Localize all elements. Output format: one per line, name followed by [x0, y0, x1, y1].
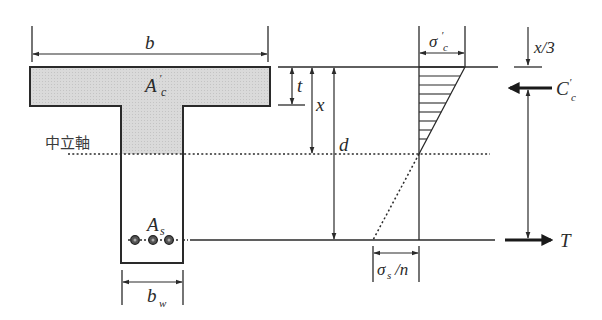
svg-text:σ: σ — [377, 260, 386, 279]
neutral-axis-label: 中立軸 — [45, 134, 90, 152]
web-width-dimension: b w — [122, 270, 183, 309]
stress-hatching — [419, 76, 460, 139]
neutral-axis: 中立軸 — [45, 134, 490, 154]
svg-text:T: T — [560, 230, 572, 251]
rebars: A s — [128, 214, 188, 244]
compression-triangle — [419, 67, 465, 154]
flange-width-label: b — [145, 32, 155, 53]
svg-text:x/3: x/3 — [533, 38, 555, 57]
svg-text:s: s — [387, 269, 391, 281]
svg-text:σ: σ — [429, 32, 438, 51]
force-couple: x/3 C ′ c T — [505, 27, 576, 251]
svg-text:t: t — [297, 75, 303, 96]
svg-text:x: x — [315, 94, 325, 115]
web-width-label: b — [147, 285, 157, 306]
flange-width-dimension: b — [32, 26, 268, 62]
svg-text:/n: /n — [394, 260, 408, 279]
svg-text:w: w — [159, 297, 167, 309]
svg-text:c: c — [571, 91, 576, 103]
svg-text:d: d — [339, 134, 349, 155]
svg-text:c: c — [443, 41, 448, 53]
svg-text:′: ′ — [569, 76, 572, 88]
steel-area-label: A — [145, 214, 159, 235]
steel-strain-line — [373, 154, 419, 240]
svg-text:A: A — [143, 75, 157, 96]
svg-text:′: ′ — [441, 29, 444, 41]
t-beam-diagram: b A ′ c 中立軸 A s b w t x — [0, 0, 602, 320]
svg-text:s: s — [160, 224, 165, 238]
svg-text:c: c — [161, 85, 167, 99]
svg-text:C: C — [556, 78, 569, 99]
